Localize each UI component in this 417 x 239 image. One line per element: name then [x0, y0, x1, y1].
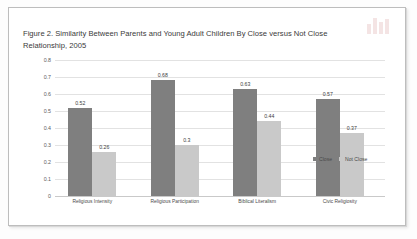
bar-not-close [92, 152, 116, 196]
gridline [55, 60, 385, 61]
legend-label: Close [319, 156, 332, 162]
bar-close [68, 108, 92, 196]
bar-value-label: 0.37 [347, 125, 357, 131]
bar-not-close [340, 133, 364, 196]
y-axis-tick-label: 0.7 [23, 74, 51, 80]
x-axis-category-label: Religious Intensity [72, 199, 112, 204]
y-axis-tick-label: 0.1 [23, 176, 51, 182]
legend-item-not-close: Not Close [339, 156, 367, 162]
bar-value-label: 0.44 [264, 113, 274, 119]
x-axis-category-label: Biblical Literalism [238, 199, 276, 204]
gridline [55, 77, 385, 78]
y-axis-tick-label: 0.8 [23, 57, 51, 63]
legend-item-close: Close [313, 156, 332, 162]
bar-not-close [175, 145, 199, 196]
bar-chart: 0.80.70.60.50.40.30.20.10 0.520.260.680.… [23, 56, 395, 222]
legend-swatch [313, 157, 317, 161]
gridline [55, 196, 385, 197]
x-axis-category-label: Civic Religiosity [323, 199, 357, 204]
bar-value-label: 0.52 [75, 100, 85, 106]
bar-value-label: 0.68 [158, 72, 168, 78]
y-axis-tick-label: 0.5 [23, 108, 51, 114]
chart-legend: CloseNot Close [313, 156, 367, 162]
bar-value-label: 0.57 [323, 91, 333, 97]
y-axis-tick-label: 0.6 [23, 91, 51, 97]
figure-title-line-2: Relationship, 2005 [23, 41, 86, 50]
figure-title: Figure 2. Similarity Between Parents and… [23, 28, 371, 51]
y-axis-tick-label: 0 [23, 193, 51, 199]
bar-close [151, 80, 175, 196]
gridline [55, 94, 385, 95]
x-axis-category-label: Religious Participation [151, 199, 199, 204]
bar-value-label: 0.3 [183, 137, 190, 143]
bar-close [233, 89, 257, 196]
y-axis-tick-label: 0.3 [23, 142, 51, 148]
legend-label: Not Close [345, 156, 367, 162]
bar-value-label: 0.63 [240, 81, 250, 87]
y-axis-tick-label: 0.4 [23, 125, 51, 131]
figure-title-line-1: Figure 2. Similarity Between Parents and… [23, 29, 327, 38]
page-background: Figure 2. Similarity Between Parents and… [0, 0, 417, 239]
legend-swatch [339, 157, 343, 161]
bar-value-label: 0.26 [99, 144, 109, 150]
plot-area: 0.520.260.680.30.630.440.570.37 CloseNot… [55, 60, 385, 196]
figure-card: Figure 2. Similarity Between Parents and… [8, 7, 406, 226]
y-axis-tick-label: 0.2 [23, 159, 51, 165]
bar-not-close [257, 121, 281, 196]
bar-close [316, 99, 340, 196]
